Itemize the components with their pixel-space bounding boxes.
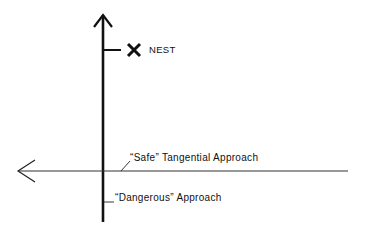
dangerous-approach-label: “Dangerous” Approach [115, 192, 222, 203]
safe-approach-label: “Safe” Tangential Approach [130, 152, 258, 163]
safe-leader-line [121, 161, 130, 171]
nest-x-icon [128, 44, 140, 56]
nest-label: NEST [149, 44, 176, 55]
horizontal-approach-arrow [18, 160, 348, 182]
vertical-approach-arrow [94, 15, 112, 222]
